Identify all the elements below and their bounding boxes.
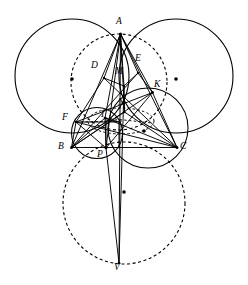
segment-group xyxy=(72,34,178,263)
vertex-dot-E xyxy=(137,72,139,74)
segment-KF xyxy=(76,93,153,123)
point-label-K: K xyxy=(154,80,160,90)
vertex-dot-M xyxy=(123,85,125,87)
point-label-N: N xyxy=(118,98,124,108)
right-circle-center-dot xyxy=(174,77,178,81)
side-AC xyxy=(121,34,178,148)
point-label-E: E xyxy=(135,54,141,64)
point-label-P: P xyxy=(97,150,103,160)
lower-circle-center-dot xyxy=(122,190,126,194)
point-label-A: A xyxy=(116,17,122,27)
geometry-canvas xyxy=(0,0,248,285)
point-label-F: F xyxy=(62,113,68,123)
vertex-dot-K xyxy=(151,91,154,94)
point-label-B: B xyxy=(58,142,64,152)
geometry-diagram: A B C D E M K F I N P V xyxy=(0,0,248,285)
vertex-dot-group xyxy=(70,33,179,265)
bkc-circle-center-dot xyxy=(142,129,146,133)
vertex-dot-P xyxy=(105,147,108,150)
point-label-M: M xyxy=(115,67,123,77)
vertex-dot-D xyxy=(103,77,105,79)
segment-EK xyxy=(138,73,153,93)
vertex-dot-F xyxy=(75,121,78,124)
vertex-dot-N xyxy=(123,111,125,113)
point-label-D: D xyxy=(91,61,98,71)
left-circle-center-dot xyxy=(70,77,74,81)
segment-PV xyxy=(106,148,119,263)
vertex-dot-A xyxy=(119,33,122,36)
point-label-V: V xyxy=(114,263,120,273)
vertex-dot-C xyxy=(176,146,179,149)
point-label-I: I xyxy=(101,110,104,120)
point-label-C: C xyxy=(180,142,186,152)
circle-group xyxy=(15,19,233,264)
solid-left-circle xyxy=(15,19,129,133)
segment-EB xyxy=(72,73,139,148)
vertex-dot-B xyxy=(70,146,73,149)
solid-right-circle xyxy=(119,19,233,133)
